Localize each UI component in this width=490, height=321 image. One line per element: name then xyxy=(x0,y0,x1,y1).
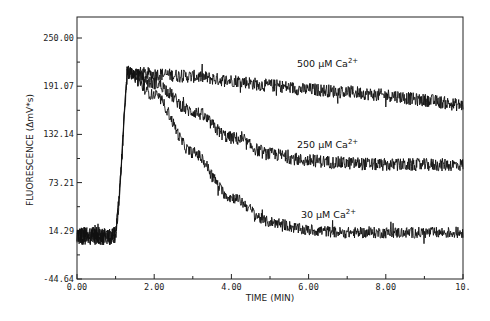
y-tick-label: 14.29 xyxy=(48,226,74,236)
annotations: 500 µM Ca2+250 µM Ca2+30 µM Ca2+ xyxy=(297,57,358,220)
y-axis-title: FLUORESCENCE (ΔmV*s) xyxy=(25,94,35,206)
fluorescence-chart: 250.00191.07132.1473.2114.29-44.64 0.002… xyxy=(0,0,490,321)
y-tick-label: 73.21 xyxy=(48,178,74,188)
trace-1 xyxy=(77,66,463,245)
series-annotation: 250 µM Ca2+ xyxy=(297,138,358,150)
y-tick-label: 191.07 xyxy=(43,81,74,91)
y-axis: 250.00191.07132.1473.2114.29-44.64 xyxy=(43,33,82,284)
series-annotation: 30 µM Ca2+ xyxy=(301,208,356,220)
x-tick-label: 6.00 xyxy=(298,282,318,292)
x-tick-label: 2.00 xyxy=(144,282,164,292)
x-tick-label: 4.00 xyxy=(221,282,241,292)
traces xyxy=(77,64,463,245)
x-tick-label: 8.00 xyxy=(376,282,396,292)
x-axis: 0.002.004.006.008.0010. xyxy=(67,274,471,292)
x-tick-label: 10. xyxy=(455,282,470,292)
y-tick-label: 250.00 xyxy=(43,33,74,43)
series-annotation: 500 µM Ca2+ xyxy=(297,57,358,69)
x-tick-label: 0.00 xyxy=(67,282,87,292)
x-axis-title: TIME (MIN) xyxy=(245,293,295,303)
y-tick-label: 132.14 xyxy=(43,129,74,139)
